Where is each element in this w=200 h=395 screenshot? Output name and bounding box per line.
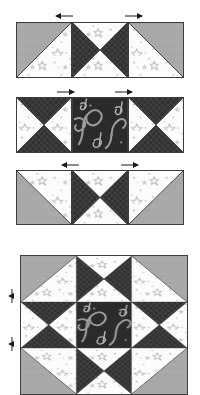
unit-half-square-triangle-gray-lower-left[interactable]: [16, 170, 72, 225]
seam-marker-upper: [8, 288, 17, 304]
press-arrow-row-3-right: [120, 161, 142, 169]
assembled-star-block[interactable]: [20, 255, 188, 395]
unit-row-3: [0, 0, 200, 232]
unit-half-square-triangle-gray-lower-right[interactable]: [128, 170, 184, 225]
seam-marker-lower: [8, 336, 17, 352]
unit-hourglass-dark-left-right-row3[interactable]: [72, 170, 128, 225]
press-arrow-row-3-left: [58, 161, 80, 169]
